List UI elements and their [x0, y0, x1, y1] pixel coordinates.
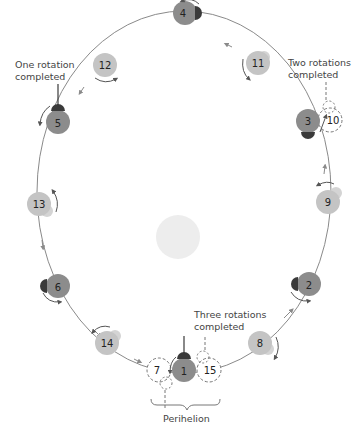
position-13: 13 — [27, 191, 57, 217]
svg-text:14: 14 — [101, 338, 114, 349]
perihelion-brace — [151, 399, 220, 410]
svg-text:11: 11 — [252, 58, 265, 69]
position-6: 6 — [40, 274, 70, 302]
position-11: 11 — [243, 51, 270, 79]
svg-text:13: 13 — [33, 199, 46, 210]
orbit-direction-arrows — [42, 44, 325, 362]
svg-text:10: 10 — [327, 115, 340, 126]
position-12: 12 — [93, 53, 117, 82]
position-1: 1 — [170, 336, 196, 382]
position-4: 4 — [173, 0, 202, 25]
svg-text:15: 15 — [204, 365, 217, 376]
position-5: 5 — [40, 84, 70, 134]
svg-text:12: 12 — [99, 60, 112, 71]
two-rotations-label: Two rotations — [287, 57, 351, 68]
three-rotations-label-2: completed — [194, 321, 244, 332]
svg-text:1: 1 — [181, 366, 187, 377]
position-2: 2 — [291, 272, 321, 301]
position-15: 15 — [197, 351, 221, 382]
two-rotations-label-2: completed — [288, 69, 338, 80]
svg-text:7: 7 — [154, 365, 160, 376]
three-rotations-label: Three rotations — [193, 309, 266, 320]
position-7: 7 — [147, 358, 172, 389]
orbit-path — [37, 11, 331, 373]
svg-text:3: 3 — [305, 116, 311, 127]
perihelion-label: Perihelion — [163, 413, 210, 424]
position-9: 9 — [316, 182, 342, 214]
sun — [156, 215, 200, 259]
svg-text:9: 9 — [325, 197, 331, 208]
svg-text:5: 5 — [55, 118, 61, 129]
svg-text:4: 4 — [180, 8, 186, 19]
svg-text:8: 8 — [257, 338, 263, 349]
one-rotation-label: One rotation — [15, 59, 75, 70]
svg-text:6: 6 — [55, 282, 61, 293]
position-14: 14 — [93, 326, 121, 355]
svg-text:2: 2 — [306, 280, 312, 291]
orbit-diagram: 7 15 10 12 11 13 9 14 — [0, 0, 361, 446]
one-rotation-label-2: completed — [15, 71, 65, 82]
